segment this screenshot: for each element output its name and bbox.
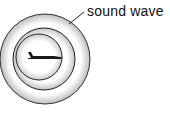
label-leader-line — [69, 12, 84, 24]
sound-wave-label: sound wave — [87, 3, 164, 19]
